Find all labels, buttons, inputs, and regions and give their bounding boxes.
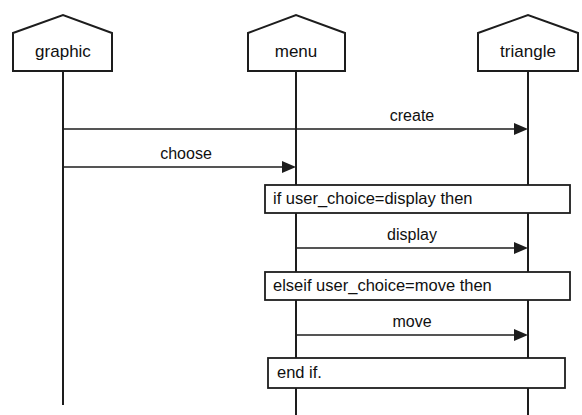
fragment-label-if-branch: if user_choice=display then <box>273 189 473 208</box>
lifeline-head-graphic[interactable]: graphic <box>13 15 112 71</box>
sequence-diagram-svg: create choose display move if user_choic… <box>0 0 582 415</box>
arrowhead-icon-display <box>514 242 528 254</box>
message-label-choose: choose <box>160 145 212 162</box>
fragment-elseif-branch[interactable]: elseif user_choice=move then <box>265 272 570 300</box>
message-display[interactable]: display <box>296 226 528 254</box>
arrowhead-icon-choose <box>282 161 296 173</box>
fragment-label-elseif-branch: elseif user_choice=move then <box>273 276 492 295</box>
message-label-display: display <box>387 226 437 243</box>
sequence-diagram-canvas: create choose display move if user_choic… <box>0 0 582 415</box>
fragment-label-end-if: end if. <box>277 363 322 381</box>
arrowhead-icon-create <box>514 123 528 135</box>
message-label-create: create <box>390 107 435 124</box>
arrowhead-icon-move <box>514 329 528 341</box>
lifeline-head-triangle[interactable]: triangle <box>478 15 578 71</box>
lifeline-head-label-triangle: triangle <box>500 42 556 61</box>
lifeline-head-menu[interactable]: menu <box>248 15 345 71</box>
message-choose[interactable]: choose <box>63 145 296 173</box>
message-move[interactable]: move <box>296 313 528 341</box>
lifeline-head-label-menu: menu <box>275 42 318 61</box>
lifeline-head-label-graphic: graphic <box>35 42 91 61</box>
fragment-if-branch[interactable]: if user_choice=display then <box>265 185 570 213</box>
message-label-move: move <box>392 313 431 330</box>
fragment-end-if[interactable]: end if. <box>268 358 565 388</box>
